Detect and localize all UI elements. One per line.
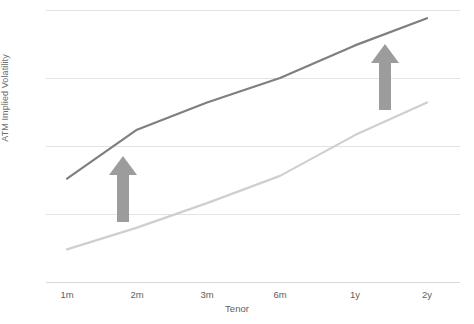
x-axis-line [46, 282, 460, 283]
right-up-arrow-icon [370, 44, 400, 111]
x-tick-2y: 2y [407, 289, 447, 300]
x-tick-1m: 1m [47, 289, 87, 300]
plot-area [46, 10, 460, 282]
x-axis-title: Tenor [0, 303, 474, 314]
x-tick-6m: 6m [260, 289, 300, 300]
left-up-arrow-icon [108, 156, 138, 223]
chart-container: ATM Implied Volatility 1m 2m 3m 6m 1y 2y… [0, 0, 474, 324]
x-tick-2m: 2m [117, 289, 157, 300]
x-tick-1y: 1y [335, 289, 375, 300]
y-axis-title: ATM Implied Volatility [0, 0, 10, 208]
x-tick-3m: 3m [187, 289, 227, 300]
